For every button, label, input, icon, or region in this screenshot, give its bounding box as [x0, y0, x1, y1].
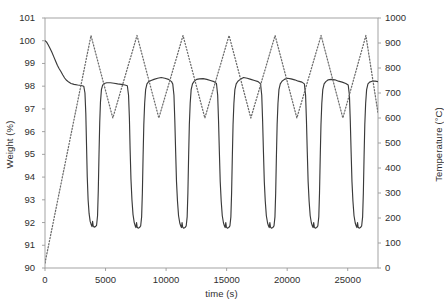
plot-frame	[45, 18, 378, 268]
y-left-tick-label: 99	[7, 57, 35, 68]
y-right-tick-label: 700	[385, 87, 419, 98]
y-right-tick-label: 200	[385, 212, 419, 223]
y-right-tick-label: 300	[385, 187, 419, 198]
y-left-tick-label: 98	[7, 80, 35, 91]
x-tick-label: 25000	[325, 274, 371, 285]
y-right-tick-label: 900	[385, 37, 419, 48]
x-axis-title: time (s)	[0, 288, 443, 299]
x-tick-label: 15000	[204, 274, 250, 285]
temperature-series-line	[45, 36, 378, 264]
y-left-tick-label: 97	[7, 103, 35, 114]
y-right-tick-label: 500	[385, 137, 419, 148]
x-tick-label: 0	[22, 274, 68, 285]
y-left-tick-label: 96	[7, 126, 35, 137]
x-tick-label: 10000	[143, 274, 189, 285]
y-left-tick-label: 94	[7, 171, 35, 182]
y-right-tick-label: 1000	[385, 12, 419, 23]
y-left-tick-label: 91	[7, 239, 35, 250]
y-right-tick-label: 0	[385, 262, 419, 273]
x-tick-label: 20000	[264, 274, 310, 285]
y-right-tick-label: 100	[385, 237, 419, 248]
y-left-tick-label: 93	[7, 194, 35, 205]
y-left-tick-label: 100	[7, 35, 35, 46]
y-left-tick-label: 101	[7, 12, 35, 23]
y-axis-right-title: Temperature (°C)	[433, 100, 444, 190]
y-right-tick-label: 800	[385, 62, 419, 73]
y-right-tick-label: 400	[385, 162, 419, 173]
x-tick-label: 5000	[83, 274, 129, 285]
y-left-tick-label: 95	[7, 148, 35, 159]
y-left-tick-label: 90	[7, 262, 35, 273]
y-right-tick-label: 600	[385, 112, 419, 123]
y-left-tick-label: 92	[7, 217, 35, 228]
weight-series-line	[45, 41, 378, 229]
